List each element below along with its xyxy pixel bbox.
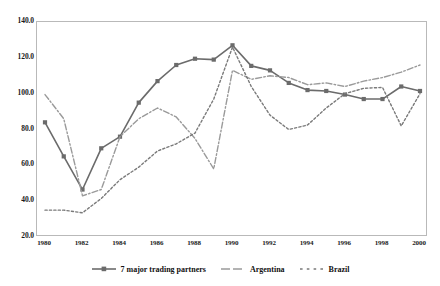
series-marker bbox=[137, 101, 141, 105]
x-axis-tick-label: 1986 bbox=[150, 239, 164, 247]
series-marker bbox=[174, 63, 178, 67]
series-marker bbox=[418, 89, 422, 93]
chart-figure: 140.0120.0100.080.060.040.020.0 19801982… bbox=[0, 0, 440, 286]
legend-label: Argentina bbox=[250, 265, 285, 274]
y-axis-tick-label: 60.0 bbox=[0, 160, 34, 168]
y-axis: 140.0120.0100.080.060.040.020.0 bbox=[0, 0, 34, 286]
y-axis-tick-label: 120.0 bbox=[0, 53, 34, 61]
legend-label: Brazil bbox=[329, 265, 350, 274]
x-axis-tick-label: 1998 bbox=[375, 239, 389, 247]
x-axis: 1980198219841986198819901992199419961998… bbox=[36, 239, 427, 251]
legend-item: Argentina bbox=[220, 264, 285, 274]
series-marker bbox=[268, 68, 272, 72]
x-axis-tick-label: 1992 bbox=[262, 239, 276, 247]
series-marker bbox=[305, 88, 309, 92]
top-cropped-text bbox=[0, 0, 440, 8]
x-axis-tick-label: 1984 bbox=[112, 239, 126, 247]
series-marker bbox=[380, 97, 384, 101]
series-marker bbox=[193, 57, 197, 61]
series-marker bbox=[399, 84, 403, 88]
series-marker bbox=[362, 97, 366, 101]
legend-swatch-argentina bbox=[220, 264, 246, 274]
series-line-argentina bbox=[45, 65, 420, 196]
plot-svg bbox=[37, 22, 428, 237]
series-marker bbox=[43, 120, 47, 124]
series-marker bbox=[249, 64, 253, 68]
chart-legend: 7 major trading partnersArgentinaBrazil bbox=[0, 262, 440, 276]
x-axis-tick-label: 2000 bbox=[412, 239, 426, 247]
series-marker bbox=[155, 79, 159, 83]
legend-swatch-brazil bbox=[299, 264, 325, 274]
x-axis-tick-label: 1990 bbox=[225, 239, 239, 247]
x-axis-tick-label: 1996 bbox=[337, 239, 351, 247]
series-line-7-major-trading-partners bbox=[45, 45, 420, 189]
legend-label: 7 major trading partners bbox=[121, 265, 206, 274]
y-axis-tick-label: 140.0 bbox=[0, 17, 34, 25]
plot-area bbox=[36, 21, 427, 236]
series-marker bbox=[212, 58, 216, 62]
y-axis-tick-label: 100.0 bbox=[0, 89, 34, 97]
x-axis-tick-label: 1982 bbox=[75, 239, 89, 247]
legend-item: 7 major trading partners bbox=[91, 264, 206, 274]
series-marker bbox=[324, 89, 328, 93]
x-axis-tick-label: 1994 bbox=[300, 239, 314, 247]
x-axis-tick-label: 1980 bbox=[37, 239, 51, 247]
legend-item: Brazil bbox=[299, 264, 350, 274]
legend-swatch-7-major-trading-partners bbox=[91, 264, 117, 274]
series-marker bbox=[99, 146, 103, 150]
series-marker bbox=[287, 81, 291, 85]
y-axis-tick-label: 80.0 bbox=[0, 125, 34, 133]
y-axis-tick-label: 20.0 bbox=[0, 232, 34, 240]
series-marker bbox=[62, 154, 66, 158]
y-axis-tick-label: 40.0 bbox=[0, 196, 34, 204]
x-axis-tick-label: 1988 bbox=[187, 239, 201, 247]
